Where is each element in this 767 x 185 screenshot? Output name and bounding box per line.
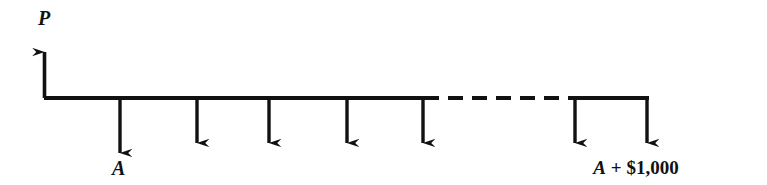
label-final-payment: A + $1,000: [593, 158, 678, 177]
label-final-payment-amount: + $1,000: [606, 157, 679, 178]
label-annuity-a: A: [112, 158, 125, 178]
cash-flow-diagram-canvas: P A A + $1,000: [0, 0, 767, 185]
label-final-payment-variable: A: [593, 157, 606, 178]
label-present-worth-p: P: [38, 8, 50, 28]
